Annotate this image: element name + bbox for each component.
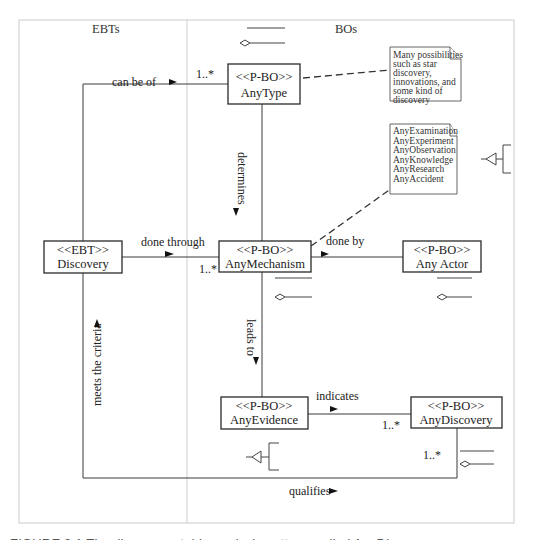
svg-text:AnyKnowledge: AnyKnowledge	[393, 155, 453, 165]
class-stereotype: <<P-BO>>	[236, 70, 293, 84]
arrow-right-icon	[329, 488, 338, 494]
generalization-icon-right	[481, 145, 511, 173]
label-can-be-of: can be of	[112, 75, 156, 89]
label-qualifies: qualifies	[289, 484, 331, 498]
class-anymechanism[interactable]: <<P-BO>> AnyMechanism	[219, 241, 311, 272]
svg-text:AnyObservation: AnyObservation	[393, 145, 456, 155]
svg-text:AnyExperiment: AnyExperiment	[393, 136, 454, 146]
arrow-up-icon	[94, 319, 100, 327]
class-stereotype: <<P-BO>>	[428, 399, 485, 413]
class-name: AnyDiscovery	[420, 413, 494, 427]
svg-text:AnyExamination: AnyExamination	[393, 126, 458, 136]
assoc-can-be-of	[83, 84, 228, 241]
label-indicates: indicates	[316, 389, 359, 403]
arrow-down-icon	[233, 208, 239, 216]
class-name: AnyEvidence	[230, 413, 298, 427]
class-anyevidence[interactable]: <<P-BO>> AnyEvidence	[221, 397, 308, 429]
arrow-right-icon	[330, 406, 338, 412]
generalization-icon-bottom	[246, 443, 279, 470]
svg-text:AnyAccident: AnyAccident	[393, 174, 444, 184]
svg-text:discovery: discovery	[393, 95, 430, 105]
multiplicity-anytype: 1..*	[196, 67, 214, 81]
arrow-down-icon	[253, 357, 259, 365]
aggregation-marker-anydiscovery	[460, 451, 494, 467]
assoc-qualifies	[83, 273, 457, 478]
label-meets-the-criteria: meets the criteria	[90, 323, 104, 406]
class-anyactor[interactable]: <<P-BO>> Any Actor	[403, 241, 481, 272]
aggregation-marker-mechanism	[275, 278, 312, 300]
aggregation-marker-actor	[437, 278, 472, 300]
label-done-by: done by	[326, 234, 364, 248]
arrow-right-icon	[165, 251, 174, 257]
figure-caption: FIGURE 3.1 The discovery stable analysis…	[10, 532, 525, 540]
class-anytype[interactable]: <<P-BO>> AnyType	[228, 64, 300, 104]
multiplicity-anydiscovery-indicates: 1..*	[382, 418, 400, 432]
note-connector-type	[303, 70, 390, 78]
uml-diagram: EBTs BOs <<P-BO>> AnyType <<EBT>> Discov…	[0, 0, 533, 540]
lane-title-ebts: EBTs	[92, 22, 120, 36]
class-stereotype: <<EBT>>	[57, 243, 109, 257]
label-leads-to: leads to	[244, 319, 258, 356]
label-determines: determines	[235, 152, 249, 205]
note-mechanism-kinds: AnyExamination AnyExperiment AnyObservat…	[390, 124, 458, 194]
legend-aggregation-icon	[240, 40, 285, 46]
class-stereotype: <<P-BO>>	[236, 399, 293, 413]
arrow-right-icon	[321, 251, 329, 257]
multiplicity-anymechanism: 1..*	[199, 262, 217, 276]
class-stereotype: <<P-BO>>	[237, 243, 294, 257]
note-type-possibilities: Many possibilities such as star discover…	[390, 47, 463, 105]
class-name: AnyMechanism	[225, 257, 305, 271]
class-anydiscovery[interactable]: <<P-BO>> AnyDiscovery	[411, 397, 502, 428]
class-discovery[interactable]: <<EBT>> Discovery	[44, 241, 122, 273]
class-name: Any Actor	[416, 257, 469, 271]
svg-text:AnyResearch: AnyResearch	[393, 164, 444, 174]
class-stereotype: <<P-BO>>	[414, 243, 471, 257]
lane-title-bos: BOs	[335, 22, 357, 36]
class-name: Discovery	[57, 257, 109, 271]
multiplicity-anydiscovery-qualifies: 1..*	[423, 448, 441, 462]
label-done-through: done through	[141, 235, 205, 249]
class-name: AnyType	[241, 86, 288, 100]
